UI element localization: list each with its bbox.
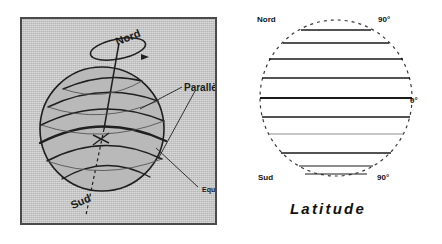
- latitude-label-sud: Sud: [258, 174, 273, 182]
- sphere-shape: [40, 67, 164, 191]
- latitude-label-equator-degrees: 0°: [410, 97, 418, 105]
- globe-label-equateur: Equateur: [202, 186, 217, 193]
- globe-diagram: Nord Sud Parallèles Equateur: [20, 17, 217, 225]
- latitude-drawing: [243, 6, 433, 196]
- globe-drawing: [22, 19, 215, 223]
- leader-line-equateur: [156, 148, 198, 187]
- latitude-lines-group: [260, 30, 412, 174]
- latitude-label-south-degrees: 90°: [377, 174, 389, 182]
- ring-arrow-icon: [141, 54, 149, 60]
- latitude-diagram: Nord 90° 0° Sud 90° Latitude: [243, 6, 433, 231]
- latitude-caption: Latitude: [290, 200, 366, 217]
- globe-label-paralleles: Parallèles: [184, 83, 217, 93]
- latitude-label-nord: Nord: [257, 16, 276, 24]
- latitude-label-north-degrees: 90°: [378, 16, 390, 24]
